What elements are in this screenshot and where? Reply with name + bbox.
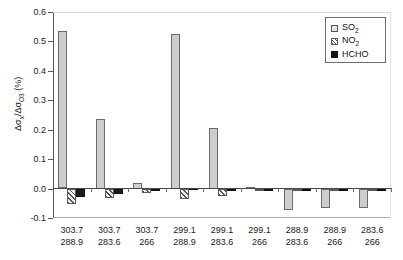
x-group-label-line: 266 [128,236,166,248]
y-tick-label: 0.6 [10,8,46,17]
y-tick [48,100,53,101]
x-tick [278,188,279,192]
y-tick-label: 0.1 [10,155,46,164]
x-group-label: 299.1283.6 [203,224,241,248]
x-group-label: 288.9266 [316,224,354,248]
y-tick [48,130,53,131]
x-tick [316,188,317,192]
legend-item-no2[interactable]: NO2 [331,35,381,48]
x-group-label-line: 288.9 [166,236,204,248]
x-group-label-line: 288.9 [53,236,91,248]
bar-no2-3 [180,189,189,199]
x-group-label-line: 303.7 [91,224,129,236]
x-group-label-line: 288.9 [316,224,354,236]
x-tick [91,188,92,192]
y-tick-label: 0.3 [10,96,46,105]
bar-hcho-0 [76,189,85,198]
x-group-label: 303.7266 [128,224,166,248]
x-group-label: 299.1266 [241,224,279,248]
bar-so2-1 [96,119,105,188]
x-group-label-line: 303.7 [128,224,166,236]
x-tick [203,188,204,192]
bar-so2-6 [284,189,293,210]
x-group-label-line: 299.1 [166,224,204,236]
zero-baseline [53,188,391,189]
bar-no2-1 [105,189,114,199]
x-tick [241,188,242,192]
x-group-label: 299.1288.9 [166,224,204,248]
bar-so2-0 [58,31,67,188]
x-group-label-line: 283.6 [91,236,129,248]
legend-label-no2: NO2 [342,36,359,48]
bar-no2-2 [142,189,151,194]
y-tick [48,159,53,160]
x-group-label-line: 303.7 [53,224,91,236]
y-tick-label: 0.2 [10,126,46,135]
bar-no2-4 [218,189,227,196]
y-tick-label: -0.1 [10,214,46,223]
no2-swatch-icon [331,38,338,45]
x-group-label: 283.6266 [353,224,391,248]
x-group-label-line: 266 [241,236,279,248]
bar-hcho-1 [114,189,123,194]
bar-so2-3 [171,34,180,189]
legend-item-so2[interactable]: SO2 [331,22,381,35]
legend-label-so2: SO2 [342,23,359,35]
x-group-label: 288.9283.6 [278,224,316,248]
x-group-label-line: 283.6 [278,236,316,248]
x-tick [353,188,354,192]
bar-no2-0 [67,189,76,205]
plot-top-rule [53,12,391,13]
y-tick-label: 0.4 [10,67,46,76]
so2-swatch-icon [331,25,338,32]
y-tick [48,12,53,13]
y-tick [48,41,53,42]
x-group-label-line: 288.9 [278,224,316,236]
bar-chart: Δσx/ΔσO3 (%) 0.60.50.40.30.20.10.0-0.1 3… [0,0,403,260]
legend-label-hcho: HCHO [342,50,369,59]
y-tick [48,71,53,72]
bar-so2-4 [209,128,218,189]
x-tick [166,188,167,192]
y-tick [48,218,53,219]
x-group-label-line: 266 [353,236,391,248]
y-tick-label: 0.5 [10,37,46,46]
legend-item-hcho[interactable]: HCHO [331,48,381,61]
x-tick [391,188,392,192]
x-group-label-line: 283.6 [353,224,391,236]
hcho-swatch-icon [331,51,338,58]
x-group-label: 303.7283.6 [91,224,129,248]
x-group-label-line: 283.6 [203,236,241,248]
x-group-label-line: 266 [316,236,354,248]
bar-so2-7 [321,189,330,209]
y-tick-label: 0.0 [10,185,46,194]
x-tick [128,188,129,192]
bar-so2-8 [359,189,368,209]
legend: SO2 NO2 HCHO [325,17,386,63]
x-group-label-line: 299.1 [203,224,241,236]
x-group-label: 303.7288.9 [53,224,91,248]
y-tick [48,189,53,190]
x-group-label-line: 299.1 [241,224,279,236]
